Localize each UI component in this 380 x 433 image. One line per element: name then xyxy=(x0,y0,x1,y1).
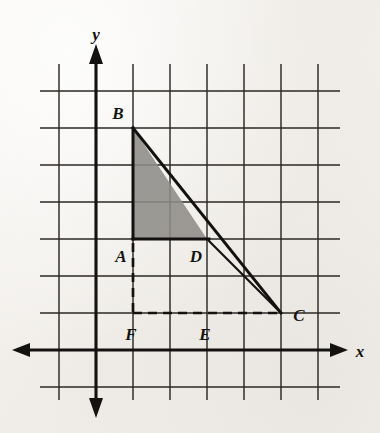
point-d-label: D xyxy=(189,247,202,266)
arrow-left-icon xyxy=(12,343,30,357)
y-axis-label: y xyxy=(90,25,100,44)
arrow-up-icon xyxy=(89,44,103,64)
point-f-label: F xyxy=(124,325,137,344)
figure-canvas: B A D C F E y x xyxy=(0,0,380,433)
geometry-figure: B A D C F E y x xyxy=(0,0,380,433)
axis-labels: y x xyxy=(90,25,365,361)
arrow-right-icon xyxy=(330,343,348,357)
point-e-label: E xyxy=(198,325,210,344)
point-c-label: C xyxy=(293,306,305,325)
x-axis-label: x xyxy=(355,342,365,361)
point-b-label: B xyxy=(111,104,123,123)
arrow-down-icon xyxy=(89,398,103,418)
point-a-label: A xyxy=(114,247,126,266)
